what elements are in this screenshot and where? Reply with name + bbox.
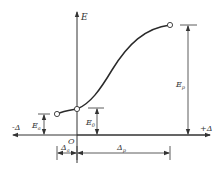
e0-label: E0 (85, 118, 96, 128)
passive-point-marker (167, 22, 172, 27)
at-rest-point-marker (74, 106, 79, 111)
origin-label: O (68, 137, 75, 146)
negative-delta-label: -Δ (12, 123, 20, 132)
pressure-curve (57, 25, 170, 114)
delta-p-label: Δp (116, 143, 127, 154)
earth-pressure-diagram: E O -Δ +Δ Ea E0 Ep Δa Δp (0, 0, 224, 171)
active-point-marker (54, 111, 59, 116)
ep-label: Ep (175, 80, 186, 91)
vertical-axis-label: E (80, 12, 88, 22)
ea-label: Ea (31, 121, 41, 131)
positive-delta-label: +Δ (200, 124, 212, 133)
